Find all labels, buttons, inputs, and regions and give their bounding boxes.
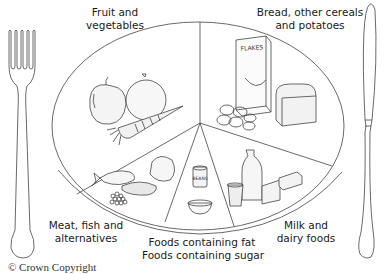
label-line: Meat, fish and xyxy=(44,219,128,232)
label-line: Milk and xyxy=(268,219,344,232)
label-line: Bread, other cereals xyxy=(245,6,375,19)
knife-icon xyxy=(359,4,376,258)
fruit-vegetables-illustration xyxy=(90,74,183,145)
beans-tin-text: BEANS xyxy=(192,176,207,181)
label-bread-cereals: Bread, other cereals and potatoes xyxy=(245,6,375,32)
fat-sugar-illustration xyxy=(188,166,212,214)
label-line: Foods containing sugar xyxy=(142,249,262,262)
label-line: dairy foods xyxy=(268,232,344,245)
label-line: alternatives xyxy=(44,232,128,245)
meat-fish-illustration xyxy=(92,156,175,205)
label-line: vegetables xyxy=(73,19,157,32)
fork-icon xyxy=(9,30,35,258)
label-fruit-vegetables: Fruit and vegetables xyxy=(73,6,157,32)
label-fat-sugar: Foods containing fat Foods containing su… xyxy=(142,236,262,262)
label-line: Foods containing fat xyxy=(142,236,262,249)
copyright-notice: © Crown Copyright xyxy=(8,261,96,273)
label-line: Fruit and xyxy=(73,6,157,19)
label-milk-dairy: Milk and dairy foods xyxy=(268,219,344,245)
milk-dairy-illustration xyxy=(227,150,302,206)
bread-cereals-illustration xyxy=(217,36,316,130)
label-line: and potatoes xyxy=(245,19,375,32)
label-meat-fish: Meat, fish and alternatives xyxy=(44,219,128,245)
